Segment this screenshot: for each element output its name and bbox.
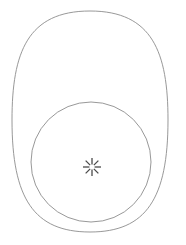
- figure-svg: [0, 0, 186, 245]
- starburst-ray-315: [94, 169, 99, 174]
- starburst-ray-135: [86, 161, 91, 166]
- egg-outline: [12, 11, 168, 232]
- drawing-canvas: Line-art sketch: a large egg-shaped outl…: [0, 0, 186, 245]
- starburst-icon: [83, 158, 101, 176]
- starburst-ray-45: [94, 161, 99, 166]
- starburst-ray-225: [86, 169, 91, 174]
- circle-outline: [31, 102, 151, 222]
